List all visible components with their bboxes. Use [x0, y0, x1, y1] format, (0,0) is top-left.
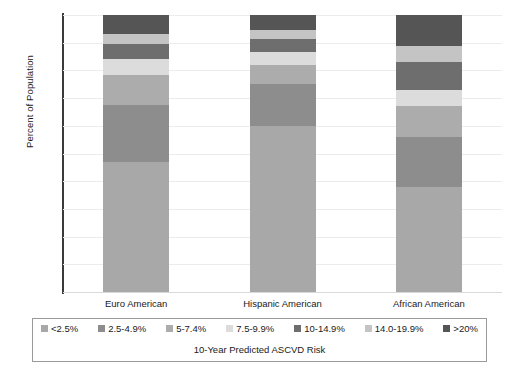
bar-segment: [396, 62, 462, 90]
legend-swatch-icon: [98, 325, 105, 332]
x-axis-label: Hispanic American: [208, 298, 358, 309]
bar-segment: [396, 46, 462, 63]
legend-label: <2.5%: [51, 323, 78, 334]
bar-african-american[interactable]: [396, 15, 462, 292]
bar-segment: [250, 65, 316, 84]
legend-item[interactable]: <2.5%: [41, 323, 78, 334]
stacked-bar-chart: Percent of Population 010203040506070809…: [0, 0, 528, 374]
legend-swatch-icon: [226, 325, 233, 332]
legend-title: 10-Year Predicted ASCVD Risk: [33, 344, 486, 355]
bar-hispanic-american[interactable]: [250, 15, 316, 292]
legend-label: 14.0-19.9%: [375, 323, 424, 334]
bar-segment: [103, 34, 169, 44]
bar-segment: [250, 84, 316, 126]
bar-segment: [103, 162, 169, 292]
legend-swatch-icon: [166, 325, 173, 332]
bar-segment: [103, 15, 169, 34]
legend-swatch-icon: [443, 325, 450, 332]
legend-item[interactable]: 5-7.4%: [166, 323, 206, 334]
bar-segment: [103, 59, 169, 74]
bar-segment: [103, 44, 169, 59]
legend-label: 2.5-4.9%: [108, 323, 146, 334]
bar-segment: [103, 75, 169, 105]
x-axis-label: African American: [354, 298, 504, 309]
legend-label: 7.5-9.9%: [236, 323, 274, 334]
legend-swatch-icon: [41, 325, 48, 332]
legend-swatch-icon: [365, 325, 372, 332]
bar-segment: [396, 137, 462, 187]
bar-euro-american[interactable]: [103, 15, 169, 292]
bar-segment: [250, 52, 316, 64]
legend-items: <2.5%2.5-4.9%5-7.4%7.5-9.9%10-14.9%14.0-…: [33, 323, 486, 334]
bar-segment: [396, 106, 462, 136]
x-axis-label: Euro American: [61, 298, 211, 309]
plot-area: [63, 15, 502, 292]
bar-segment: [250, 39, 316, 53]
legend-swatch-icon: [294, 325, 301, 332]
legend-label: 5-7.4%: [176, 323, 206, 334]
legend-label: 10-14.9%: [304, 323, 345, 334]
legend-item[interactable]: >20%: [443, 323, 478, 334]
bar-segment: [396, 90, 462, 107]
y-axis-title: Percent of Population: [24, 27, 35, 177]
legend-item[interactable]: 2.5-4.9%: [98, 323, 146, 334]
gridline: [63, 292, 502, 293]
bar-segment: [396, 187, 462, 292]
bar-segment: [103, 105, 169, 162]
bar-segment: [250, 126, 316, 292]
legend-item[interactable]: 14.0-19.9%: [365, 323, 424, 334]
legend-label: >20%: [453, 323, 478, 334]
legend-item[interactable]: 10-14.9%: [294, 323, 345, 334]
bar-segment: [250, 30, 316, 38]
bar-segment: [396, 15, 462, 45]
legend: <2.5%2.5-4.9%5-7.4%7.5-9.9%10-14.9%14.0-…: [32, 318, 487, 362]
legend-item[interactable]: 7.5-9.9%: [226, 323, 274, 334]
bar-segment: [250, 15, 316, 30]
